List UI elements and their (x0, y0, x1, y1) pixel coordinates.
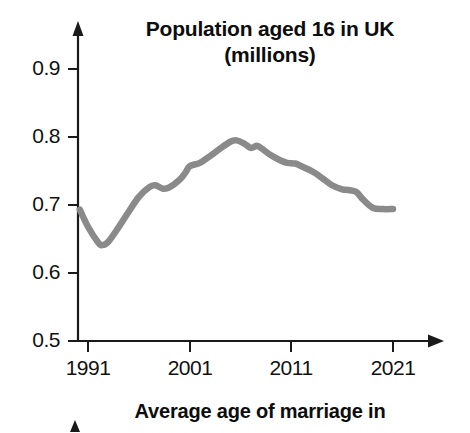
chart-figure: Population aged 16 in UK (millions) 0.9 (0, 0, 470, 433)
next-chart-title: Average age of marriage in (60, 400, 460, 423)
x-axis (70, 335, 444, 348)
y-axis-arrow-icon (73, 21, 84, 36)
y-tick-label-0.6: 0.6 (8, 260, 60, 284)
y-tick-label-0.8: 0.8 (8, 124, 60, 148)
data-series-line (80, 140, 393, 245)
x-tick-label-2011: 2011 (256, 356, 326, 380)
y-tick-label-0.9: 0.9 (8, 56, 60, 80)
x-tick-label-1991: 1991 (53, 356, 123, 380)
x-axis-arrow-icon (428, 335, 444, 348)
y-tick-label-0.5: 0.5 (8, 328, 60, 352)
x-tick-label-2001: 2001 (155, 356, 225, 380)
y-axis-ticks (68, 69, 78, 341)
x-axis-ticks (88, 341, 393, 352)
x-tick-label-2021: 2021 (358, 356, 428, 380)
y-tick-label-0.7: 0.7 (8, 192, 60, 216)
